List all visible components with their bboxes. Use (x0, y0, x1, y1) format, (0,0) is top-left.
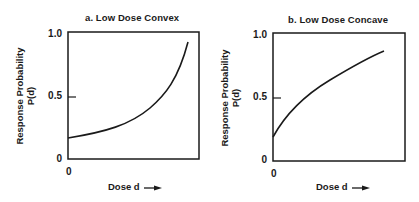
plot-area (205, 0, 419, 202)
convex-curve (68, 42, 188, 138)
plot-area (0, 0, 210, 202)
panel-low-dose-convex: a. Low Dose Convex Response Probability … (0, 0, 210, 202)
concave-curve (273, 51, 384, 137)
plot-frame (273, 33, 405, 161)
plot-frame (68, 32, 199, 159)
panel-low-dose-concave: b. Low Dose Concave Response Probability… (205, 0, 419, 202)
